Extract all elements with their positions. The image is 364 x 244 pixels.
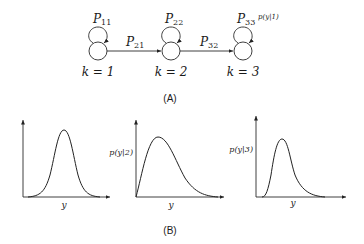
x-axis-label: y <box>60 200 67 210</box>
state-circle <box>89 42 107 60</box>
state-k3: P33 k = 3 p(y|1) <box>227 12 279 79</box>
transition-label: P21 <box>125 35 144 50</box>
density-plot-3: p(y|3) y <box>229 116 346 208</box>
self-loop-arrow <box>162 27 180 43</box>
skewed-curve <box>136 137 218 197</box>
panel-b-caption: (B) <box>163 225 176 236</box>
panel-b: y p(y|2) y p(y|3) y (B) <box>23 116 346 236</box>
y-axis-label: p(y|2) <box>109 148 133 157</box>
state-k1: P11 k = 1 <box>82 12 115 79</box>
transition-1-2: P21 <box>107 35 161 51</box>
transition-2-3: P32 <box>180 35 233 51</box>
panel-a-caption: (A) <box>163 93 176 104</box>
x-axis-label: y <box>289 198 296 208</box>
k-label: k = 1 <box>82 65 115 79</box>
state-k2: P22 k = 2 <box>155 12 188 79</box>
state-circle <box>234 42 252 60</box>
x-axis-label: y <box>167 200 174 210</box>
self-loop-arrow <box>234 27 252 43</box>
k-label: k = 2 <box>155 65 188 79</box>
transition-label: P32 <box>199 35 218 50</box>
density-plot-2: p(y|2) y <box>109 120 224 210</box>
peaked-curve <box>262 139 325 197</box>
gaussian-curve <box>28 130 100 197</box>
y-axis-label: p(y|3) <box>229 145 253 154</box>
self-transition-label: P11 <box>92 12 111 27</box>
density-plot-1: y <box>23 120 110 210</box>
emission-label: p(y|1) <box>258 13 279 21</box>
panel-a: P11 k = 1 P22 k = 2 P33 k = 3 p(y|1) P21… <box>82 12 279 104</box>
hmm-diagram: P11 k = 1 P22 k = 2 P33 k = 3 p(y|1) P21… <box>0 0 364 244</box>
self-loop-arrow <box>89 27 107 43</box>
self-transition-label: P22 <box>164 12 183 27</box>
self-transition-label: P33 <box>236 12 255 27</box>
state-circle <box>162 42 180 60</box>
k-label: k = 3 <box>227 65 260 79</box>
